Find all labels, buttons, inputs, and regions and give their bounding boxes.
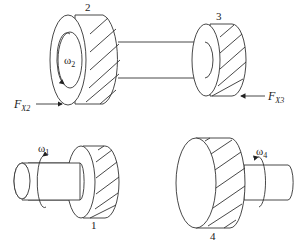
force-fx3-label: FX3 bbox=[267, 89, 284, 105]
gear-train-diagram: ω2 2 3 FX2 FX3 ω1 1 bbox=[0, 0, 304, 247]
force-fx2-label: FX2 bbox=[13, 97, 30, 113]
gear-2-label: 2 bbox=[85, 1, 91, 13]
gear-3 bbox=[192, 24, 246, 96]
gear-4-assembly bbox=[176, 138, 293, 228]
gear-1-label: 1 bbox=[91, 219, 97, 231]
gear-3-label: 3 bbox=[216, 10, 222, 22]
upper-shaft-assembly bbox=[50, 15, 246, 105]
omega-4-label: ω4 bbox=[256, 145, 267, 160]
omega-1-label: ω1 bbox=[38, 142, 49, 157]
gear-2 bbox=[50, 15, 120, 105]
gear-1-assembly bbox=[14, 146, 119, 218]
gear-4-label: 4 bbox=[210, 230, 216, 242]
